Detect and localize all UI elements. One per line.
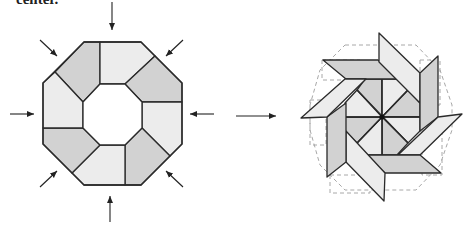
octagon-ring-figure — [43, 42, 182, 185]
diagram-canvas — [0, 0, 471, 225]
inward-arrow-icon — [166, 40, 183, 56]
inward-arrow-icon — [40, 40, 57, 56]
center-dot — [380, 115, 385, 120]
inner-octagon-hole — [83, 84, 142, 145]
inward-arrow-icon — [40, 171, 57, 187]
pinwheel-star-figure — [301, 33, 462, 201]
inward-arrow-icon — [166, 171, 183, 187]
